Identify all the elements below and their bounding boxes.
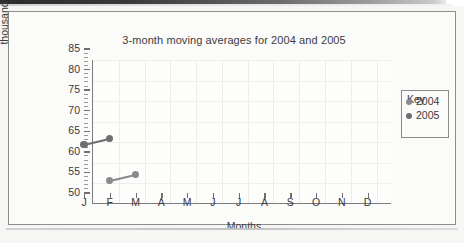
x-axis-tick-label: F [100,196,120,208]
y-axis-major-tick [84,48,90,49]
y-axis-minor-tick [84,102,88,103]
y-axis-minor-tick [84,160,88,161]
chart-card-frame: 3-month moving averages for 2004 and 200… [8,11,456,225]
legend-marker-dot [406,113,412,119]
y-axis-labels: 5055606570758085 [56,12,80,243]
x-axis-tick-label: S [280,196,300,208]
y-axis-tick-label: 80 [60,63,80,75]
y-axis-minor-tick [84,94,88,95]
y-axis-tick-label: 60 [60,145,80,157]
y-axis-title: Milk production in thousands of litres [0,0,15,72]
y-axis-minor-tick [84,135,88,136]
y-axis-tick-label: 70 [60,104,80,116]
y-axis-minor-tick [84,176,88,177]
y-axis-minor-tick [84,98,88,99]
y-axis-minor-tick [84,53,88,54]
y-axis-minor-tick [84,73,88,74]
y-axis-minor-tick [84,118,88,119]
horizontal-gridline [93,122,391,123]
y-axis-major-tick [84,172,90,173]
plot-area [92,60,391,204]
chart-title: 3-month moving averages for 2004 and 200… [69,34,399,46]
x-axis-tick-label: D [358,196,378,208]
x-axis-tick-label: J [74,196,94,208]
horizontal-gridline [93,142,391,143]
y-axis-minor-tick [84,139,88,140]
y-axis-title-line-2: thousands of litres [0,0,11,72]
y-axis-minor-tick [84,168,88,169]
horizontal-gridline [93,101,391,102]
scan-artifact-bottom [6,228,458,230]
legend-marker-dot [406,99,412,105]
y-axis-minor-tick [84,106,88,107]
y-axis-tick-label: 75 [60,83,80,95]
x-axis-tick-label: M [126,196,146,208]
legend-label: 2005 [416,109,439,121]
y-axis-major-tick [84,110,90,111]
x-axis-title: Months [159,220,329,232]
y-axis-minor-tick [84,77,88,78]
plot-grid-layer [93,60,391,203]
x-axis-tick-label: A [254,196,274,208]
y-axis-minor-tick [84,188,88,189]
y-axis-major-tick [84,131,90,132]
x-axis-tick-label: O [306,196,326,208]
y-axis-minor-tick [84,155,88,156]
y-axis-minor-tick [84,65,88,66]
y-axis-minor-tick [84,86,88,87]
horizontal-gridline [93,183,391,184]
y-axis-tick-label: 55 [60,165,80,177]
y-axis-tick-label: 85 [60,42,80,54]
horizontal-gridline [93,163,391,164]
x-axis-tick-label: A [151,196,171,208]
y-axis-minor-tick [84,61,88,62]
legend-label: 2004 [416,95,439,107]
horizontal-gridline [93,81,391,82]
y-axis-minor-tick [84,123,88,124]
x-axis-tick-label: N [332,196,352,208]
y-axis-minor-tick [84,57,88,58]
y-axis-major-tick [84,69,90,70]
horizontal-gridline [93,60,391,61]
y-axis-tick-label: 65 [60,124,80,136]
y-axis-minor-tick [84,81,88,82]
y-axis-major-tick [84,151,90,152]
x-axis-tick-label: J [229,196,249,208]
y-axis-minor-tick [84,127,88,128]
x-axis-tick-label: J [203,196,223,208]
y-axis-minor-tick [84,114,88,115]
x-axis-tick-label: M [177,196,197,208]
y-axis-minor-tick [84,184,88,185]
y-axis-major-tick [84,89,90,90]
y-axis-minor-tick [84,164,88,165]
data-point-marker [80,141,87,148]
y-axis-minor-tick [84,180,88,181]
